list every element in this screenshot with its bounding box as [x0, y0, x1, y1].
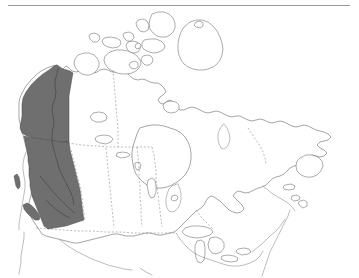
boundary-60th-parallel: [68, 143, 152, 147]
lake-ontario: [236, 248, 251, 255]
axel-heiberg-island: [136, 19, 149, 32]
yukon-shaded-region: [20, 65, 73, 142]
newfoundland-island: [296, 155, 323, 177]
us-east-coast: [262, 210, 290, 276]
southampton-island: [163, 101, 179, 113]
prince-patrick-island: [89, 33, 100, 42]
lake-michigan: [195, 240, 205, 263]
great-bear-lake: [90, 112, 107, 122]
lake-winnipeg: [147, 178, 156, 198]
hudson-bay-group: [132, 124, 230, 212]
us-gulf-detail: [140, 268, 152, 275]
st-lawrence-line: [252, 219, 285, 252]
us-midwest-detail: [60, 240, 132, 270]
figure-root: [0, 0, 359, 278]
boundary-quebec-labrador: [248, 128, 266, 164]
melville-island: [102, 37, 121, 48]
boundary-saskatchewan-manitoba: [137, 147, 142, 227]
highlight-group: [14, 65, 84, 229]
devon-island: [142, 39, 165, 53]
somerset-island: [141, 55, 153, 65]
prince-edward-island: [291, 195, 300, 201]
boundary-alberta-saskatchewan: [106, 148, 114, 228]
ungava-bay-outline: [218, 124, 230, 149]
boundary-nunavut-nwt: [113, 70, 118, 147]
alaska-panhandle-line: [19, 152, 26, 230]
cape-breton-island: [298, 200, 307, 208]
lake-huron: [208, 237, 224, 254]
akimiski-island: [171, 195, 178, 201]
hudson-bay-outline: [132, 125, 191, 188]
cornwallis-island: [135, 43, 141, 49]
great-slave-lake: [95, 135, 113, 144]
canada-map: [0, 0, 359, 278]
arctic-archipelago-group: [74, 12, 323, 208]
lake-erie: [221, 255, 238, 262]
lake-superior: [182, 226, 213, 238]
us-west-coast: [19, 232, 24, 274]
reindeer-lake: [135, 162, 141, 170]
anticosti-island: [283, 184, 295, 190]
lake-athabasca: [116, 152, 130, 158]
ellesmere-island: [149, 12, 175, 37]
boundary-us-canada-west: [36, 228, 176, 233]
haida-gwaii-shaded: [14, 174, 20, 189]
bathurst-island: [123, 32, 134, 41]
